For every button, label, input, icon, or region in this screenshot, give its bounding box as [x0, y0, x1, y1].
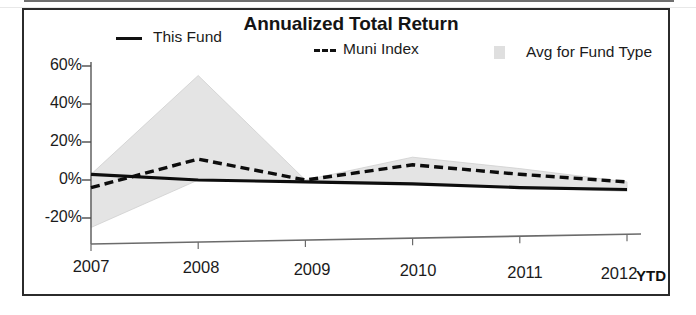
y-tick-label-1: 40%	[20, 94, 82, 112]
x-tick-label-2011: 2011	[490, 263, 560, 282]
scan-edge-artifact	[0, 0, 696, 8]
avg-for-fund-type-band	[91, 76, 627, 228]
x-tick-label-2009: 2009	[277, 260, 347, 279]
y-tick-label-3: 0%	[20, 170, 82, 188]
x-tick-label-2010: 2010	[383, 261, 453, 280]
annualized-total-return-chart-card: Annualized Total Return This Fund Muni I…	[22, 8, 670, 296]
chart-plot-svg	[24, 10, 672, 298]
x-tick-label-2007: 2007	[56, 257, 126, 276]
y-tick-label-2: 20%	[20, 132, 82, 150]
y-tick-label-0: 60%	[20, 56, 82, 74]
x-tick-label-2008: 2008	[166, 258, 236, 277]
x-axis-ytd-label: YTD	[636, 267, 666, 284]
y-tick-label-4: -20%	[20, 208, 82, 226]
plot-area	[24, 10, 672, 298]
